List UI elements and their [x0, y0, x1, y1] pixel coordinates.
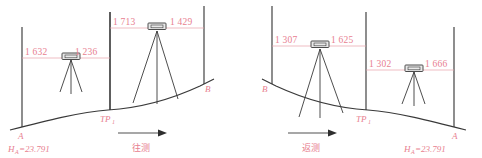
level-instrument-setup1 [60, 53, 82, 94]
point-label-a-return: A [451, 131, 458, 141]
caption-forward: 往测 [132, 142, 150, 153]
benchmark-label-forward: H [7, 144, 15, 154]
direction-arrow-forward [118, 130, 167, 137]
point-label-b-forward: B [205, 84, 211, 94]
level-instrument-setup4 [402, 65, 425, 106]
turning-point-label-return: TP [356, 114, 367, 124]
reading-foresight-4: 1 666 [425, 59, 447, 69]
turning-point-label-forward: TP [100, 114, 111, 124]
reading-backsight-3: 1 307 [275, 35, 297, 45]
level-instrument-setup2 [133, 23, 178, 104]
reading-foresight-3: 1 625 [331, 35, 353, 45]
caption-return: 返测 [302, 142, 320, 153]
reading-backsight-1: 1 632 [25, 47, 47, 57]
turning-point-sub-return: 1 [368, 119, 371, 125]
point-label-a-forward: A [17, 131, 24, 141]
figure-canvas: 1 632 1 236 1 713 1 429 A B TP 1 H A =23… [0, 0, 482, 158]
benchmark-value-forward: =23.791 [19, 144, 50, 154]
benchmark-value-return: =23.791 [415, 144, 446, 154]
panel-forward: 1 632 1 236 1 713 1 429 A B TP 1 H A =23… [7, 6, 214, 155]
reading-foresight-1: 1 236 [75, 47, 97, 57]
direction-arrow-return [288, 130, 337, 137]
turning-point-sub-forward: 1 [112, 119, 115, 125]
leveling-diagram: 1 632 1 236 1 713 1 429 A B TP 1 H A =23… [0, 0, 482, 158]
benchmark-label-return: H [403, 144, 411, 154]
panel-return: 1 307 1 625 1 302 1 666 B A TP 1 H A =23… [262, 6, 466, 155]
reading-backsight-2: 1 713 [113, 17, 135, 27]
reading-backsight-4: 1 302 [369, 59, 391, 69]
reading-foresight-2: 1 429 [170, 17, 192, 27]
point-label-b-return: B [262, 84, 268, 94]
